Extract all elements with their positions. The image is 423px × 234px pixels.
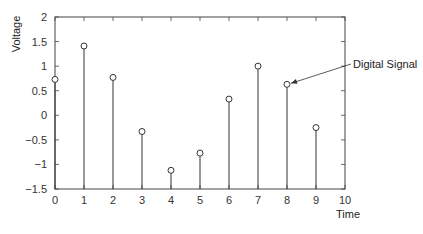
y-tick-label: −1.5 — [25, 183, 47, 195]
stem-marker — [110, 74, 116, 80]
y-tick-label: 0 — [41, 109, 47, 121]
stem-marker — [168, 167, 174, 173]
data-stems — [52, 43, 319, 189]
x-tick-label: 1 — [81, 194, 87, 206]
x-tick-label: 9 — [313, 194, 319, 206]
y-tick-label: 2 — [41, 11, 47, 23]
annotation-arrow — [291, 64, 351, 83]
x-tick-label: 4 — [168, 194, 174, 206]
stem-marker — [197, 150, 203, 156]
x-axis-label: Time — [336, 208, 360, 220]
y-tick-label: 1 — [41, 60, 47, 72]
stem-marker — [52, 76, 58, 82]
x-tick-label: 8 — [284, 194, 290, 206]
stem-marker — [81, 43, 87, 49]
y-axis-label: Voltage — [10, 16, 22, 53]
stem-plot: 01234567891021.510.50−0.5−1−1.5 Voltage … — [0, 0, 423, 234]
x-tick-label: 6 — [226, 194, 232, 206]
y-tick-label: 1.5 — [32, 36, 47, 48]
stem-marker — [284, 81, 290, 87]
x-tick-label: 0 — [52, 194, 58, 206]
axis-ticks: 01234567891021.510.50−0.5−1−1.5 — [25, 11, 351, 206]
annotation-digital-signal: Digital Signal — [291, 58, 417, 84]
x-tick-label: 10 — [339, 194, 351, 206]
y-tick-label: −0.5 — [25, 134, 47, 146]
stem-marker — [313, 125, 319, 131]
stem-marker — [139, 129, 145, 135]
x-tick-label: 5 — [197, 194, 203, 206]
x-tick-label: 3 — [139, 194, 145, 206]
annotation-label: Digital Signal — [353, 58, 417, 70]
x-tick-label: 2 — [110, 194, 116, 206]
stem-marker — [226, 96, 232, 102]
stem-marker — [255, 63, 261, 69]
y-tick-label: 0.5 — [32, 85, 47, 97]
y-tick-label: −1 — [34, 158, 47, 170]
arrowhead-icon — [291, 79, 297, 84]
x-tick-label: 7 — [255, 194, 261, 206]
